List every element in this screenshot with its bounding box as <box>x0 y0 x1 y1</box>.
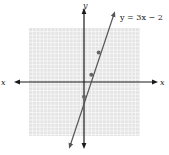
data-point <box>97 51 101 55</box>
data-point <box>82 95 86 99</box>
graph: x x y y = 3x − 2 <box>0 0 169 155</box>
x-axis-label-right: x <box>160 78 165 87</box>
data-point <box>89 73 93 77</box>
y-axis-label: y <box>82 1 88 10</box>
equation-label: y = 3x − 2 <box>119 13 163 22</box>
x-axis-label-left: x <box>1 78 6 87</box>
